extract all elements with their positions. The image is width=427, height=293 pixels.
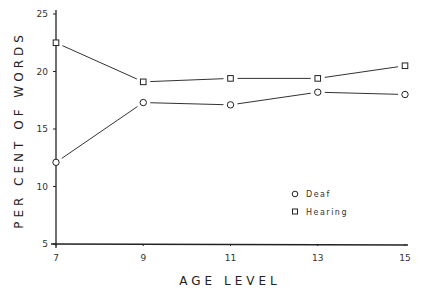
legend-square-marker-icon: [293, 209, 298, 214]
x-tick-label: 13: [312, 253, 323, 263]
x-axis-title: AGE LEVEL: [179, 274, 280, 288]
y-tick-label: 25: [37, 9, 48, 19]
square-marker-icon: [402, 63, 408, 69]
series-segment: [325, 92, 398, 94]
circle-marker-icon: [227, 102, 233, 108]
circle-marker-icon: [53, 159, 59, 165]
series-hearing: [53, 40, 408, 85]
series-segment: [325, 67, 398, 78]
square-marker-icon: [228, 76, 234, 82]
square-marker-icon: [140, 79, 146, 85]
circle-marker-icon: [402, 91, 408, 97]
series-layer: [53, 40, 408, 166]
y-tick-label: 20: [37, 67, 49, 77]
x-tick-label: 7: [53, 253, 59, 263]
series-segment: [237, 93, 310, 104]
legend-label-deaf: Deaf: [306, 190, 331, 199]
legend-circle-marker-icon: [292, 191, 298, 197]
x-tick-label: 15: [399, 253, 410, 263]
series-segment: [150, 103, 223, 105]
axes: 51015202579111315: [37, 9, 411, 263]
x-tick-label: 9: [140, 253, 146, 263]
series-segment: [150, 79, 223, 82]
series-segment: [62, 46, 136, 79]
square-marker-icon: [315, 76, 321, 82]
circle-marker-icon: [315, 89, 321, 95]
x-tick-label: 11: [225, 253, 236, 263]
series-deaf: [53, 89, 408, 166]
y-tick-label: 5: [42, 239, 48, 249]
y-tick-label: 10: [37, 182, 49, 192]
y-tick-label: 15: [37, 124, 48, 134]
circle-marker-icon: [140, 99, 146, 105]
square-marker-icon: [53, 40, 59, 46]
series-segment: [62, 107, 138, 159]
x-axis-line: [51, 244, 408, 245]
legend-label-hearing: Hearing: [306, 208, 348, 217]
line-chart: 51015202579111315 AGE LEVEL PER CENT OF …: [0, 0, 427, 293]
legend: Deaf Hearing: [292, 190, 348, 217]
y-axis-title: PER CENT OF WORDS: [12, 31, 26, 229]
